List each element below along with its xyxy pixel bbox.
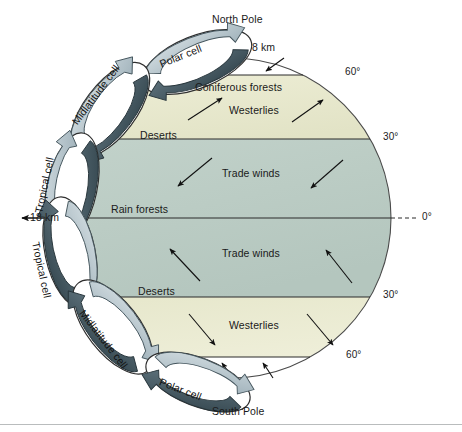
band-label-trade-winds-north: Trade winds xyxy=(222,167,280,179)
latitude-label-30s: 30° xyxy=(383,289,398,300)
band-label-westerlies-north: Westerlies xyxy=(229,104,279,116)
latitude-label-equator: 0° xyxy=(422,211,432,222)
band-label-trade-winds-south: Trade winds xyxy=(222,247,280,259)
band-label-rain-forests: Rain forests xyxy=(111,203,168,215)
band-label-deserts-north: Deserts xyxy=(140,129,177,141)
equatorial-height-label: 18 km xyxy=(30,211,59,223)
north-pole-label: North Pole xyxy=(212,13,263,25)
band-label-westerlies-south: Westerlies xyxy=(229,319,279,331)
climate-circulation-diagram: North Pole South Pole 8 km 18 km 60° 30°… xyxy=(0,0,462,432)
latitude-label-60s: 60° xyxy=(346,349,361,360)
latitude-label-60n: 60° xyxy=(345,66,360,77)
polar-height-label: 8 km xyxy=(252,41,275,53)
diagram-canvas xyxy=(0,0,462,432)
band-label-coniferous-forests: Coniferous forests xyxy=(195,81,282,93)
band-label-deserts-south: Deserts xyxy=(138,285,175,297)
figure-bottom-rule xyxy=(0,424,462,425)
latitude-label-30n: 30° xyxy=(383,131,398,142)
south-pole-label: South Pole xyxy=(212,405,264,417)
